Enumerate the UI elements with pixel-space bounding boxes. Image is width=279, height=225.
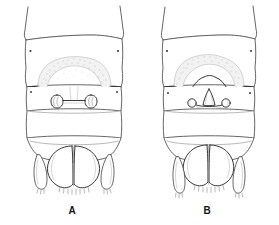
figure-a-seta-pit: [30, 50, 32, 52]
figure-b-fourth-segment: [163, 111, 255, 138]
figure-b-seta-pit: [166, 50, 168, 52]
figure-b-apical-lobes: [183, 145, 233, 186]
figure-b-label: B: [203, 205, 210, 216]
figure-a-median-segment: [26, 87, 122, 111]
figure-a-sclerite-right: [85, 95, 97, 108]
figure-a-seta-pit: [30, 91, 32, 93]
figure-a-label: A: [68, 205, 75, 216]
figure-a-seta-pit: [116, 91, 118, 93]
figure-a-apical-lobes: [47, 146, 99, 188]
figure-plate: A: [0, 0, 279, 225]
figure-b-seta-pit: [250, 50, 252, 52]
figure-b-round-sclerite-right: [222, 99, 230, 107]
figure-a-fourth-segment: [26, 111, 122, 138]
figure-b-round-sclerite-left: [188, 99, 196, 107]
figure-b-seta-pit: [167, 92, 169, 94]
figure-a-seta-pit: [117, 50, 119, 52]
figure-b-seta-pit: [249, 92, 251, 94]
